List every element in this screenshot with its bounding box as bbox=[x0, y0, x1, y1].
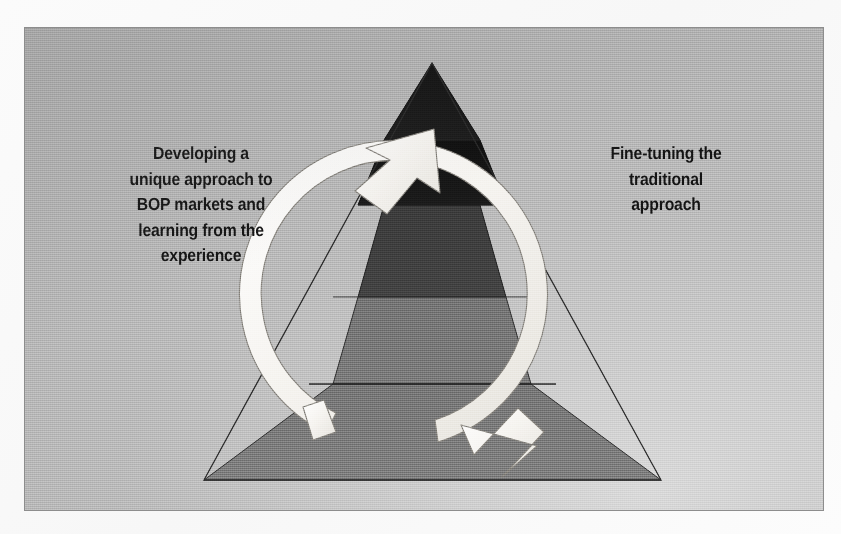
figure-panel: Developing a unique approach to BOP mark… bbox=[24, 27, 824, 511]
pyramid-tier-top bbox=[384, 63, 480, 140]
pyramid-tier-upper-middle bbox=[358, 205, 506, 297]
pyramid-tier-base bbox=[204, 384, 661, 480]
callout-left-line-5: experience bbox=[113, 243, 289, 269]
figure-root: Developing a unique approach to BOP mark… bbox=[0, 0, 841, 534]
callout-left-line-1: Developing a bbox=[113, 141, 289, 167]
callout-left-line-3: BOP markets and bbox=[113, 192, 289, 218]
callout-left-line-2: unique approach to bbox=[113, 167, 289, 193]
pyramid-tier-lower-middle bbox=[333, 297, 531, 384]
callout-right-fine-tuning-traditional-approach: Fine-tuning the traditional approach bbox=[582, 141, 749, 218]
bop-pyramid bbox=[204, 63, 661, 480]
callout-left-developing-unique-approach: Developing a unique approach to BOP mark… bbox=[113, 141, 289, 269]
diagram-canvas bbox=[25, 28, 824, 511]
callout-right-line-3: approach bbox=[582, 192, 749, 218]
callout-right-line-1: Fine-tuning the bbox=[582, 141, 749, 167]
callout-right-line-2: traditional bbox=[582, 167, 749, 193]
callout-left-line-4: learning from the bbox=[113, 218, 289, 244]
